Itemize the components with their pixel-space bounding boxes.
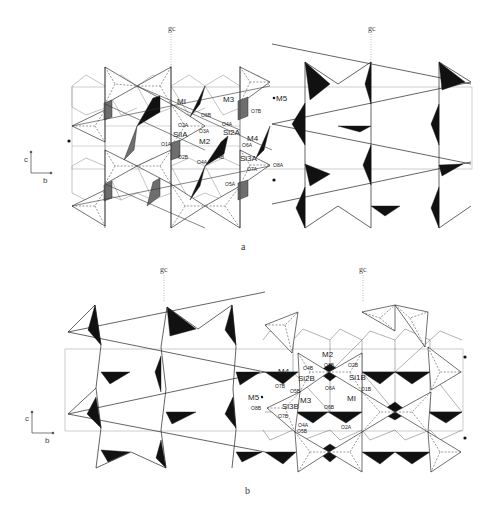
atom-label: O6A <box>242 142 253 148</box>
site-label-m1: MI <box>177 97 186 106</box>
site-label-m2: M2 <box>199 137 211 146</box>
site-label-m3: M3 <box>300 396 312 405</box>
axes-indicator <box>31 411 54 434</box>
atom-label: O6B <box>324 404 335 410</box>
atom-label: O5A <box>225 181 236 187</box>
atom-dot <box>261 396 263 398</box>
atom-label: O5B <box>297 428 308 434</box>
atom-label: O8B <box>251 405 262 411</box>
site-label-si3a: Si3A <box>240 154 258 163</box>
atom-label: O8A <box>273 162 284 168</box>
atom-label: O3B <box>324 362 335 368</box>
axis-label-b: b <box>43 176 48 185</box>
atom-label: O2A <box>178 122 189 128</box>
atom-label: O4B <box>214 154 225 160</box>
atom-label: O6A <box>325 385 336 391</box>
atom-label: O2A <box>341 424 352 430</box>
atom-label: O5B <box>290 388 301 394</box>
ring-framework <box>68 292 265 468</box>
ring-tetra-black <box>87 305 262 468</box>
atom-dot <box>272 178 275 181</box>
atom-label: O7B <box>278 413 289 419</box>
panel-caption: b <box>245 485 250 496</box>
site-label-m1: MI <box>347 394 356 403</box>
axes-indicator <box>30 151 52 174</box>
panel-b: gc gc <box>25 265 467 496</box>
atom-label: O4B <box>303 365 314 371</box>
site-label-m5: M5 <box>248 393 260 402</box>
atom-label: O2B <box>178 154 189 160</box>
glide-label: gc <box>359 265 367 274</box>
atom-dot <box>67 139 70 142</box>
unit-cell <box>65 349 463 431</box>
atom-label: O3A <box>199 128 210 134</box>
atom-label: O4A <box>197 159 208 165</box>
atom-dot <box>273 97 276 100</box>
atom-label: O7A <box>247 166 258 172</box>
axis-label-c: c <box>25 414 29 423</box>
panel-caption: a <box>241 241 246 252</box>
site-label-si3b: Si3B <box>282 402 299 411</box>
crystal-structure-figure: gc gc <box>0 0 488 509</box>
axis-label-b: b <box>45 436 50 445</box>
site-label-si2a: Si2A <box>223 128 241 137</box>
glide-label: gc <box>368 24 376 33</box>
site-label-m3: M3 <box>223 95 235 104</box>
atom-label: O4A <box>222 121 233 127</box>
atom-label: O6B <box>201 112 212 118</box>
site-label-m5: M5 <box>276 94 288 103</box>
atom-label: O7B <box>275 383 286 389</box>
atom-dot <box>463 436 466 439</box>
site-label-si2b: Si2B <box>298 374 315 383</box>
site-label-si1b: Si1B <box>349 373 366 382</box>
site-label-m4: M4 <box>278 367 290 376</box>
glide-label: gc <box>168 24 176 33</box>
panel-a: gc gc <box>24 24 472 252</box>
atom-label: O1A <box>161 141 172 147</box>
atom-label: O1B <box>361 386 372 392</box>
site-label-si1a: SiIA <box>173 130 188 139</box>
glide-label: gc <box>160 265 168 274</box>
atom-label: O7B <box>251 108 262 114</box>
axis-label-c: c <box>24 155 28 164</box>
site-label-m2: M2 <box>322 350 334 359</box>
atom-dot <box>463 355 466 358</box>
atom-label: O2B <box>348 362 359 368</box>
unit-cell <box>72 87 472 169</box>
